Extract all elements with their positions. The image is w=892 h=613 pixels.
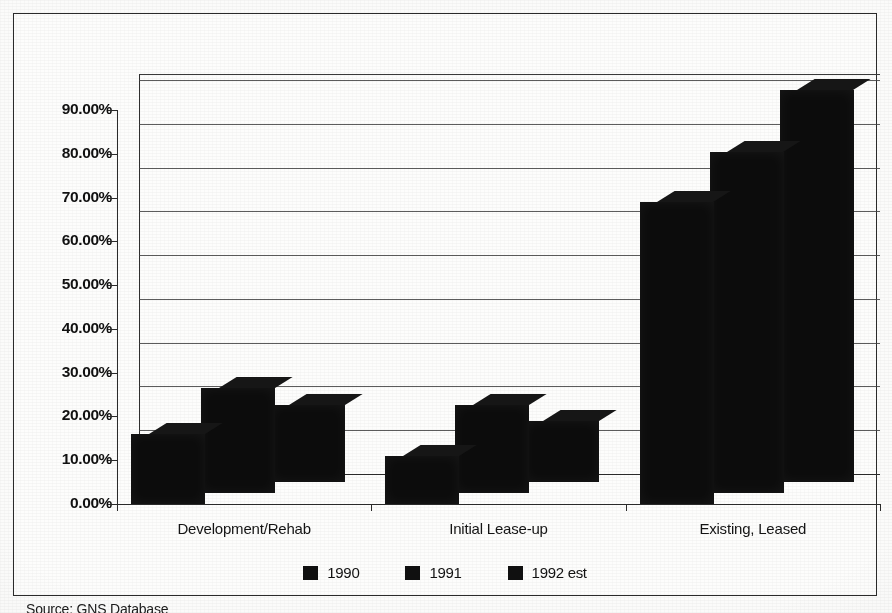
bar — [385, 456, 459, 504]
y-axis-tick-label: 90.00% — [18, 100, 112, 118]
bar-front-face — [271, 405, 345, 482]
scanned-page: 0.00%10.00%20.00%30.00%40.00%50.00%60.00… — [0, 0, 892, 613]
y-axis-tick-label: 0.00% — [18, 494, 112, 512]
y-axis-tick-label: 50.00% — [18, 275, 112, 293]
legend-item: 1990 — [303, 564, 359, 581]
x-axis-category-label: Development/Rehab — [117, 520, 371, 537]
y-axis-tick-label: 60.00% — [18, 231, 112, 249]
y-axis-tick — [108, 416, 117, 417]
bar — [201, 388, 275, 493]
x-axis-category-label: Initial Lease-up — [371, 520, 625, 537]
gridline — [139, 80, 880, 81]
bar-front-face — [201, 388, 275, 493]
x-axis-tick — [371, 504, 372, 511]
y-axis-tick-label: 80.00% — [18, 144, 112, 162]
x-axis-tick — [880, 504, 881, 511]
x-axis-line — [117, 504, 880, 505]
bar-front-face — [640, 202, 714, 504]
bar-front-face — [780, 90, 854, 482]
bar-front-face — [385, 456, 459, 504]
legend-swatch-icon — [405, 566, 420, 580]
y-axis-tick-label: 20.00% — [18, 406, 112, 424]
y-axis-tick — [108, 285, 117, 286]
legend-label: 1990 — [327, 564, 359, 581]
y-axis-tick — [108, 460, 117, 461]
legend-swatch-icon — [303, 566, 318, 580]
bar-front-face — [525, 421, 599, 482]
y-axis-tick — [108, 110, 117, 111]
legend-item: 1992 est — [508, 564, 587, 581]
y-axis-tick — [108, 329, 117, 330]
y-axis-tick — [108, 373, 117, 374]
plot-area: Development/RehabInitial Lease-upExistin… — [117, 74, 880, 504]
legend-label: 1991 — [429, 564, 461, 581]
bar — [271, 405, 345, 482]
bar — [131, 434, 205, 504]
y-axis-labels: 0.00%10.00%20.00%30.00%40.00%50.00%60.00… — [14, 74, 112, 504]
chart-legend: 199019911992 est — [14, 564, 876, 581]
bar — [710, 152, 784, 493]
chart-frame: 0.00%10.00%20.00%30.00%40.00%50.00%60.00… — [13, 13, 877, 596]
source-caption: Source: GNS Database — [26, 601, 168, 613]
y-axis-line — [117, 110, 118, 504]
y-axis-tick-label: 40.00% — [18, 319, 112, 337]
y-axis-tick — [108, 198, 117, 199]
y-axis-tick-label: 70.00% — [18, 188, 112, 206]
y-axis-tick — [108, 504, 117, 505]
bar — [640, 202, 714, 504]
x-axis-tick — [626, 504, 627, 511]
x-axis-category-label: Existing, Leased — [626, 520, 880, 537]
y-axis-tick — [108, 241, 117, 242]
bar-front-face — [710, 152, 784, 493]
y-axis-tick-label: 30.00% — [18, 363, 112, 381]
bar — [525, 421, 599, 482]
gridline — [139, 124, 880, 125]
y-axis-tick-label: 10.00% — [18, 450, 112, 468]
y-axis-tick — [108, 154, 117, 155]
x-axis-tick — [117, 504, 118, 511]
legend-item: 1991 — [405, 564, 461, 581]
legend-label: 1992 est — [532, 564, 587, 581]
bar — [780, 90, 854, 482]
bar-front-face — [131, 434, 205, 504]
legend-swatch-icon — [508, 566, 523, 580]
